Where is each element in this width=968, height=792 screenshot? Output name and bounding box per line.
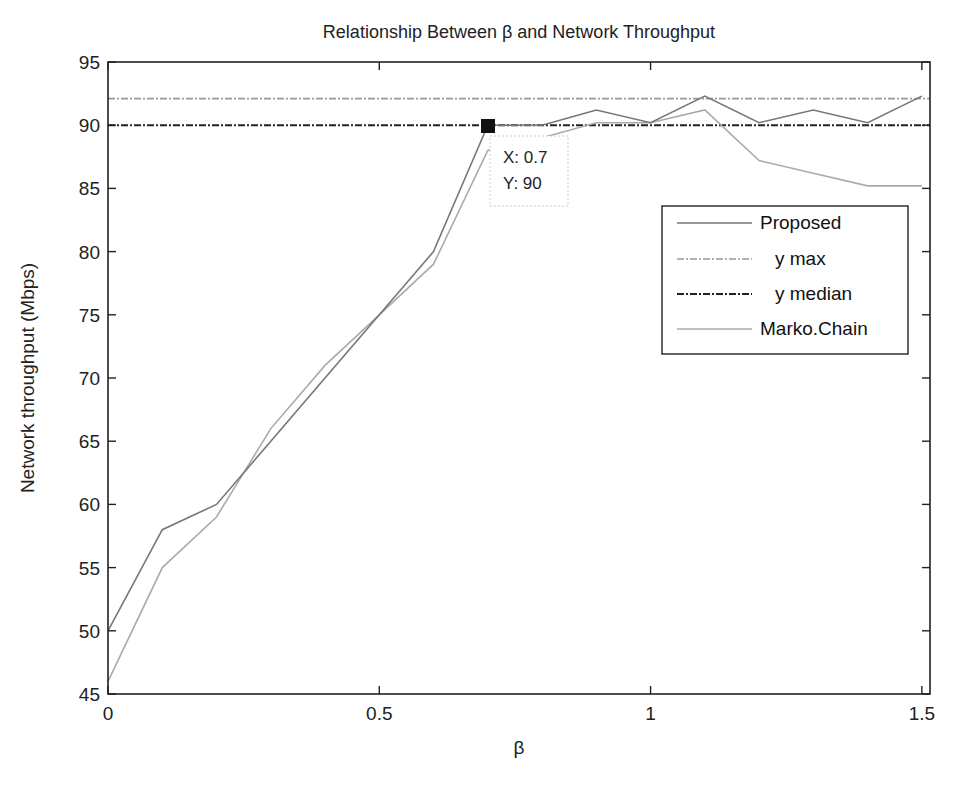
y-tick-label: 85 [79,178,100,199]
x-tick-label: 0.5 [366,703,392,724]
x-tick-label: 1 [645,703,656,724]
y-tick-label: 80 [79,242,100,263]
datatip-x: X: 0.7 [503,148,547,167]
line-chart: Relationship Between β and Network Throu… [0,0,968,792]
x-tick-label: 1.5 [909,703,935,724]
x-tick-label: 0 [103,703,114,724]
y-tick-label: 45 [79,684,100,705]
legend: Proposedy maxy medianMarko.Chain [662,206,908,354]
datatip[interactable]: X: 0.7 Y: 90 [481,119,568,206]
chart-title: Relationship Between β and Network Throu… [323,22,715,42]
y-tick-label: 55 [79,558,100,579]
y-tick-label: 65 [79,431,100,452]
legend-label: Proposed [760,212,841,233]
y-tick-label: 50 [79,621,100,642]
cropped-caption [20,776,950,790]
legend-label: y median [775,283,852,304]
legend-label: Marko.Chain [760,318,868,339]
x-axis-label: β [514,737,525,758]
y-axis-label: Network throughput (Mbps) [17,263,38,493]
datatip-box [490,136,568,206]
legend-label: y max [775,248,826,269]
datatip-y: Y: 90 [503,174,542,193]
y-tick-label: 95 [79,52,100,73]
y-tick-label: 90 [79,115,100,136]
datatip-marker[interactable] [481,119,495,133]
y-tick-label: 75 [79,305,100,326]
y-tick-label: 60 [79,494,100,515]
y-tick-label: 70 [79,368,100,389]
